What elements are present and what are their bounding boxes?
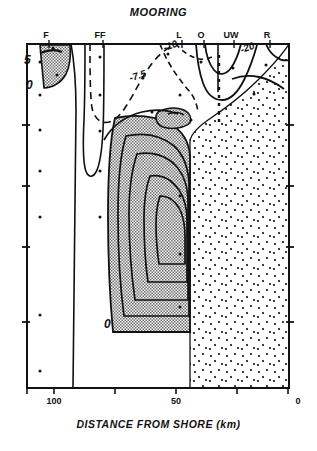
contour-plot-svg bbox=[0, 0, 317, 451]
bottom-topography-region bbox=[190, 44, 289, 388]
figure-container: MOORING DISTANCE FROM SHORE (km) F FF L … bbox=[0, 0, 317, 451]
shaded-core-small-O bbox=[156, 108, 191, 128]
contour-0-lobe bbox=[83, 44, 104, 176]
plot-interior bbox=[39, 44, 290, 388]
contour-neg-solid-b bbox=[205, 44, 241, 74]
contour-neg10-dashed bbox=[160, 44, 198, 112]
contour-0-upper bbox=[71, 44, 76, 388]
